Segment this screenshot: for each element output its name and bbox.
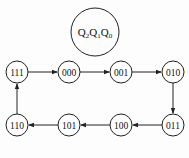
state-node-110: 110 [6, 114, 28, 136]
state-node-001: 001 [110, 61, 132, 83]
transition-arrows [17, 72, 173, 125]
state-node-111: 111 [6, 61, 28, 83]
state-node-010: 010 [162, 61, 184, 83]
state-node-100: 100 [110, 114, 132, 136]
svg-text:000: 000 [62, 68, 77, 78]
svg-text:011: 011 [166, 121, 180, 131]
state-node-011: 011 [162, 114, 184, 136]
state-node-000: 000 [58, 61, 80, 83]
svg-text:101: 101 [62, 121, 77, 131]
state-node-101: 101 [58, 114, 80, 136]
svg-text:110: 110 [10, 121, 24, 131]
svg-text:111: 111 [10, 68, 24, 78]
state-diagram: Q2Q1Q0 111 000 001 010 011 100 101 110 [0, 0, 189, 158]
diagram-canvas: Q2Q1Q0 111 000 001 010 011 100 101 110 [0, 0, 189, 158]
svg-text:100: 100 [114, 121, 129, 131]
svg-text:001: 001 [114, 68, 129, 78]
svg-text:Q2Q1Q0: Q2Q1Q0 [78, 26, 113, 40]
legend-circle: Q2Q1Q0 [71, 8, 119, 56]
svg-text:010: 010 [166, 68, 181, 78]
